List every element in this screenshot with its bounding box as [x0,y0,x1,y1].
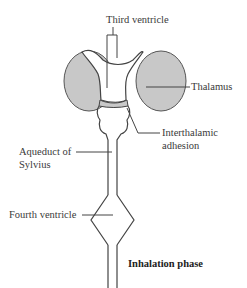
ventricular-system-diagram: Third ventricle Thalamus Interthalamic a… [0,0,247,288]
label-interthalamic-line1: Interthalamic [162,127,218,140]
fourth-ventricle [91,195,134,245]
label-aqueduct-line2: Sylvius [19,159,51,172]
lower-tube [108,245,117,288]
label-fourth-ventricle: Fourth ventricle [9,209,76,222]
diagram-drawing [0,0,247,288]
thalamus-right [136,51,186,111]
label-third-ventricle: Third ventricle [106,14,169,27]
label-thalamus: Thalamus [191,81,232,94]
caption-inhalation-phase: Inhalation phase [128,258,203,271]
interthalamic-leader [127,108,160,133]
label-aqueduct-line1: Aqueduct of [19,146,71,159]
label-interthalamic-line2: adhesion [162,140,199,153]
lower-third-ventricle [97,106,130,195]
